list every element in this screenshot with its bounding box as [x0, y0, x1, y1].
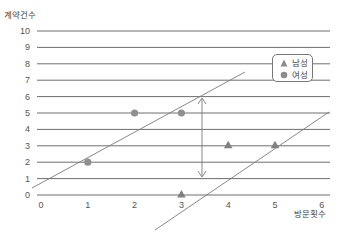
data-points — [84, 109, 279, 197]
legend: 남성 여성 — [272, 54, 313, 82]
y-tick-label: 2 — [25, 157, 30, 167]
y-tick-labels: 012345678910 — [20, 26, 30, 200]
circle-icon — [280, 71, 288, 79]
circle-marker — [131, 109, 138, 116]
y-tick-label: 5 — [25, 108, 30, 118]
y-axis-label: 계약건수 — [4, 10, 36, 20]
x-axis-label: 방문횟수 — [294, 209, 326, 219]
circle-marker — [178, 109, 185, 116]
triangle-marker — [271, 141, 280, 149]
triangle-icon — [280, 59, 288, 67]
y-tick-label: 1 — [25, 174, 30, 184]
triangle-marker — [224, 141, 233, 149]
triangle-marker — [177, 190, 186, 198]
y-tick-label: 0 — [25, 190, 30, 200]
x-tick-label: 5 — [272, 200, 277, 210]
x-tick-label: 3 — [179, 200, 184, 210]
x-tick-label: 2 — [132, 200, 137, 210]
scatter-chart: 계약건수 012345678910 0123456 방문횟수 — [0, 0, 348, 239]
legend-item-male: 남성 — [273, 57, 312, 69]
y-tick-label: 8 — [25, 59, 30, 69]
y-tick-label: 9 — [25, 42, 30, 52]
upper-boundary-line — [32, 72, 245, 188]
x-tick-label: 4 — [226, 200, 231, 210]
legend-item-female: 여성 — [273, 69, 312, 81]
y-tick-label: 10 — [20, 26, 30, 36]
y-tick-label: 7 — [25, 75, 30, 85]
margin-double-arrow — [198, 98, 206, 177]
x-tick-label: 1 — [85, 200, 90, 210]
x-tick-labels: 0123456 — [38, 200, 324, 210]
y-tick-label: 3 — [25, 141, 30, 151]
y-tick-label: 4 — [25, 124, 30, 134]
x-tick-label: 0 — [38, 200, 43, 210]
y-tick-label: 6 — [25, 92, 30, 102]
circle-marker — [84, 159, 91, 166]
